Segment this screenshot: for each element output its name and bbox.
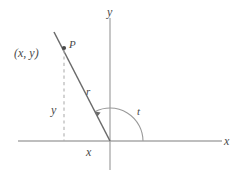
polar-coordinate-figure: y x (x, y) P r y x t (0, 0, 237, 175)
point-P-marker (62, 46, 66, 50)
x-axis-label: x (224, 135, 229, 147)
vertical-leg-label: y (51, 104, 56, 116)
y-axis-label: y (107, 6, 112, 18)
radius-label: r (86, 86, 90, 97)
angle-label: t (137, 106, 140, 117)
angle-arc (95, 108, 143, 141)
point-coordinates-label: (x, y) (14, 47, 39, 59)
horizontal-leg-label: x (86, 146, 91, 158)
figure-canvas (0, 0, 237, 175)
point-P-label: P (69, 39, 76, 50)
